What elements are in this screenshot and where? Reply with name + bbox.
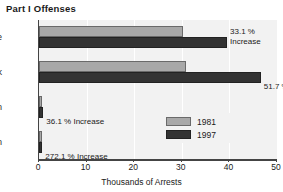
chart-title: Part I Offenses: [6, 3, 76, 14]
bar-indian-1997: [39, 107, 43, 118]
annotation-line-2: Increase: [230, 37, 261, 47]
chart-container: Part I Offenses Thousands of Arrests 198…: [0, 0, 283, 192]
x-axis-tick-mark: [276, 159, 277, 162]
x-axis-tick-mark: [38, 159, 39, 162]
x-axis-tick-label: 30: [176, 162, 185, 172]
annotation-white: 33.1 %Increase: [230, 27, 261, 47]
bar-black-1981: [39, 61, 186, 72]
legend-item-1997: 1997: [166, 128, 232, 141]
bar-asian-1981: [39, 131, 42, 142]
bar-white-1997: [39, 37, 227, 48]
bar-white-1981: [39, 26, 183, 37]
x-axis-tick-label: 0: [36, 162, 41, 172]
y-axis-category-label: White: [0, 32, 2, 42]
annotation-indian: 36.1 % Increase: [46, 117, 104, 127]
x-axis-title: Thousands of Arrests: [0, 177, 283, 187]
y-axis-category-label: Asian: [0, 137, 2, 147]
legend-swatch-1997: [166, 130, 191, 139]
legend-label-1981: 1981: [197, 117, 216, 127]
legend-item-1981: 1981: [166, 115, 232, 128]
chart-legend: 1981 1997: [163, 113, 235, 143]
x-axis-tick-mark: [181, 159, 182, 162]
x-axis-tick-label: 20: [128, 162, 137, 172]
legend-label-1997: 1997: [197, 130, 216, 140]
bar-asian-1997: [39, 142, 42, 153]
legend-swatch-1981: [166, 117, 191, 126]
x-axis-tick-label: 50: [271, 162, 280, 172]
bar-black-1997: [39, 72, 261, 83]
x-axis-tick-mark: [228, 159, 229, 162]
y-axis-category-label: Black: [0, 67, 2, 77]
x-axis-tick-label: 40: [224, 162, 233, 172]
annotation-black: 51.7 % Increase: [264, 82, 283, 92]
x-axis-tick-label: 10: [81, 162, 90, 172]
bar-indian-1981: [39, 96, 42, 107]
x-axis-tick-mark: [133, 159, 134, 162]
annotation-line-1: 33.1 %: [230, 27, 261, 37]
y-axis-category-label: Indian: [0, 102, 2, 112]
annotation-asian: 272.1 % Increase: [45, 152, 107, 162]
